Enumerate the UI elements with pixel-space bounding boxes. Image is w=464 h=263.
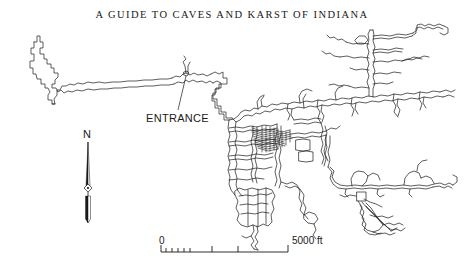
scale-bar-icon [0, 0, 464, 263]
cave-map-figure: A GUIDE TO CAVES AND KARST OF INDIANA [0, 0, 464, 263]
